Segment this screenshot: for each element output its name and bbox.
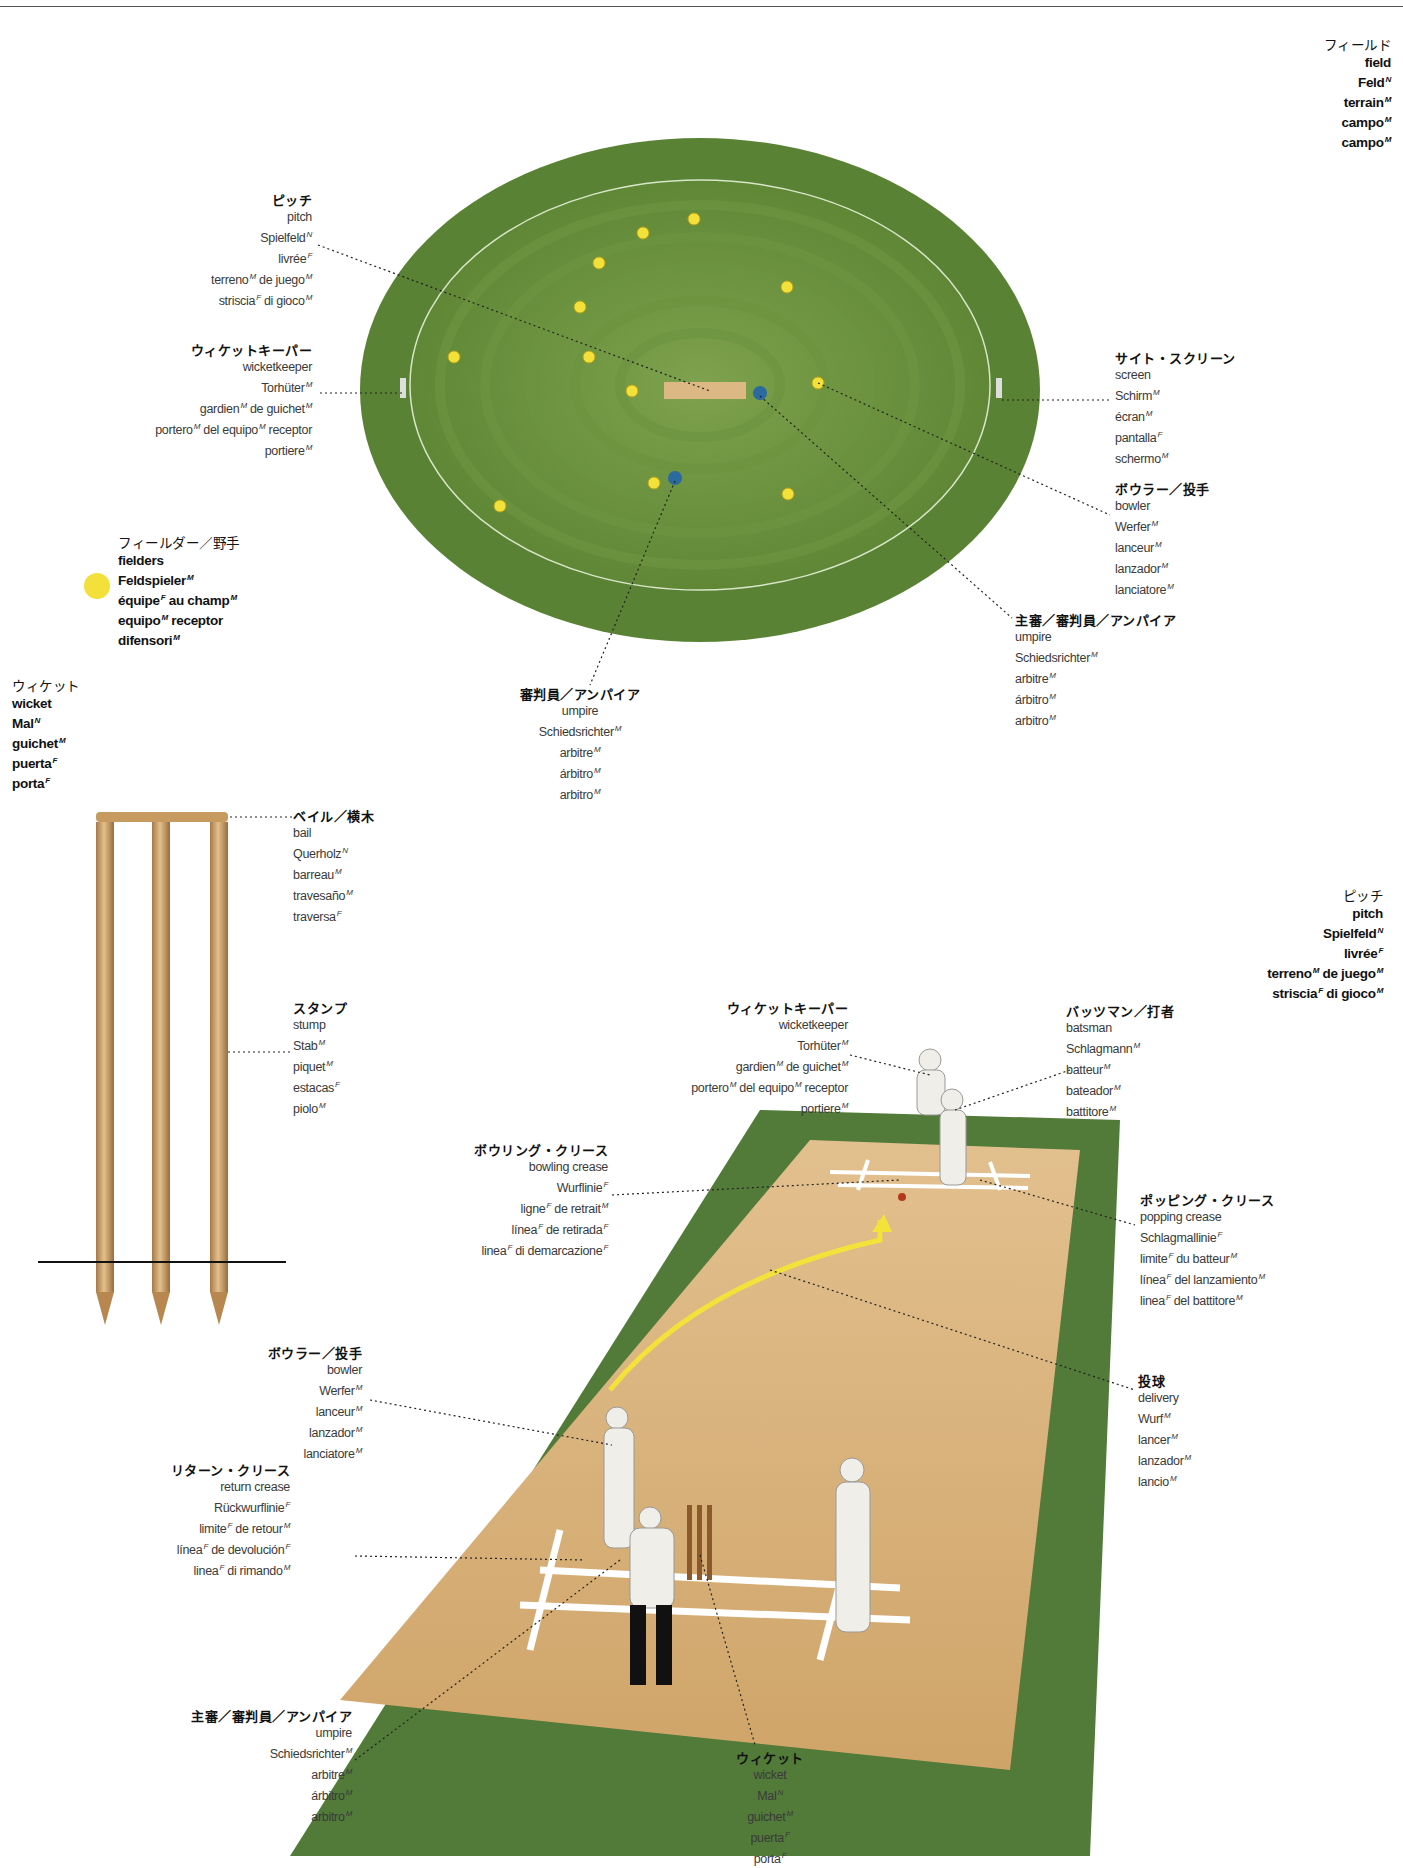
term-line: barreauM	[293, 863, 374, 884]
term-line: puertaF	[12, 752, 80, 772]
label-fielders: フィールダー／野手fieldersFeldspielerMéquipeF au …	[118, 535, 240, 649]
term-line: limiteF du batteurM	[1140, 1247, 1274, 1268]
term-line: portaF	[12, 772, 80, 792]
term-line: batteurM	[1066, 1058, 1174, 1079]
term-line: gardienM de guichetM	[150, 397, 312, 418]
term-line: arbitreM	[505, 741, 655, 762]
term-line: écranM	[1115, 405, 1236, 426]
term-line: return crease	[160, 1479, 290, 1496]
label-pitch-title: ピッチpitchSpielfeldNlivréeFterrenoM de jue…	[1267, 888, 1383, 1002]
term-line: umpire	[1015, 629, 1176, 646]
term-line: guichetM	[12, 732, 80, 752]
pitch-perspective-illustration	[290, 1049, 1120, 1856]
label-sight-screen: サイト・スクリーンscreenSchirmMécranMpantallaFsch…	[1115, 350, 1236, 468]
term-line: portaF	[720, 1847, 820, 1868]
term-line: árbitroM	[505, 762, 655, 783]
label-field-title: フィールド fieldFeldNterrainMcampoMcampoM	[1324, 37, 1392, 151]
term-line: terrenoM de juegoM	[200, 268, 312, 289]
term-line: arbitreM	[1015, 667, 1176, 688]
term-line: QuerholzN	[293, 842, 374, 863]
fielder-legend-dot	[84, 573, 110, 599]
label-return-crease: リターン・クリースreturn creaseRückwurflinieFlimi…	[160, 1462, 290, 1580]
term-line: SchiedsrichterM	[1015, 646, 1176, 667]
term-line: lancioM	[1138, 1470, 1191, 1491]
term-line: delivery	[1138, 1390, 1191, 1407]
term-line: battitoreM	[1066, 1100, 1174, 1121]
term-line: campoM	[1324, 111, 1392, 131]
term-line: porteroM del equipoM receptor	[150, 418, 312, 439]
label-wicketkeeper-bottom: ウィケットキーパーwicketkeeperTorhüterMgardienM d…	[690, 1000, 848, 1118]
term-line: piquetM	[293, 1055, 347, 1076]
term-line: strisciaF di giocoM	[200, 289, 312, 310]
term-line: difensoriM	[118, 629, 240, 649]
wicket-stumps-illustration	[38, 812, 286, 1325]
term-line: stump	[293, 1017, 347, 1034]
sight-screen-left	[400, 378, 406, 398]
term-line: campoM	[1324, 131, 1392, 151]
term-line: bateadorM	[1066, 1079, 1174, 1100]
label-wicket: ウィケットwicketMalNguichetMpuertaFportaF	[12, 678, 80, 792]
label-popping-crease: ポッピング・クリースpopping creaseSchlagmallinieFl…	[1140, 1192, 1274, 1310]
term-line: líneaF de devoluciónF	[160, 1538, 290, 1559]
term-line: MalN	[12, 712, 80, 732]
term-line: árbitroM	[1015, 688, 1176, 709]
term-line: gardienM de guichetM	[690, 1055, 848, 1076]
term-line: FeldspielerM	[118, 569, 240, 589]
term-line: bowling crease	[470, 1159, 608, 1176]
term-line: bowler	[262, 1362, 362, 1379]
term-line: umpire	[505, 703, 655, 720]
term-line: WurflinieF	[470, 1176, 608, 1197]
term-line: pioloM	[293, 1097, 347, 1118]
term-line: popping crease	[1140, 1209, 1274, 1226]
term-line: ligneF de retraitM	[470, 1197, 608, 1218]
term-line: SchlagmannM	[1066, 1037, 1174, 1058]
label-bowler-top: ボウラー／投手bowlerWerferMlanceurMlanzadorMlan…	[1115, 481, 1210, 599]
term-line: umpire	[190, 1725, 352, 1742]
term-line: field	[1324, 54, 1392, 71]
term-line: SchirmM	[1115, 384, 1236, 405]
term-line: livréeF	[1267, 942, 1383, 962]
pitch-strip	[664, 382, 746, 399]
term-line: schermoM	[1115, 447, 1236, 468]
term-line: lanzadorM	[1115, 557, 1210, 578]
term-line: líneaF de retiradaF	[470, 1218, 608, 1239]
term-line: WerferM	[262, 1379, 362, 1400]
term-line: lanciatoreM	[262, 1442, 362, 1463]
term-line: pantallaF	[1115, 426, 1236, 447]
term-line: livréeF	[200, 247, 312, 268]
term-line: limiteF de retourM	[160, 1517, 290, 1538]
term-line: líneaF del lanzamientoM	[1140, 1268, 1274, 1289]
term-line: arbitroM	[1015, 709, 1176, 730]
term-line: WerferM	[1115, 515, 1210, 536]
term-line: lanzadorM	[262, 1421, 362, 1442]
term-line: SpielfeldN	[1267, 922, 1383, 942]
term-line: wicketkeeper	[690, 1017, 848, 1034]
term-line: wicketkeeper	[150, 359, 312, 376]
term-line: bail	[293, 825, 374, 842]
term-line: SchlagmallinieF	[1140, 1226, 1274, 1247]
term-line: traversaF	[293, 905, 374, 926]
term-line: SchiedsrichterM	[505, 720, 655, 741]
term-line: arbitreM	[190, 1763, 352, 1784]
term-line: lancerM	[1138, 1428, 1191, 1449]
term-line: SpielfeldN	[200, 226, 312, 247]
cricket-field-oval	[360, 138, 1040, 642]
term-line: terrenoM de juegoM	[1267, 962, 1383, 982]
term-line: TorhüterM	[150, 376, 312, 397]
term-line: strisciaF di giocoM	[1267, 982, 1383, 1002]
term-line: lineaF del battitoreM	[1140, 1289, 1274, 1310]
term-line: lineaF di rimandoM	[160, 1559, 290, 1580]
term-line: TorhüterM	[690, 1034, 848, 1055]
label-pitch: ピッチpitchSpielfeldNlivréeFterrenoM de jue…	[200, 192, 312, 310]
term-line: RückwurflinieF	[160, 1496, 290, 1517]
label-bowling-crease: ボウリング・クリースbowling creaseWurflinieFligneF…	[470, 1142, 608, 1260]
term-line: batsman	[1066, 1020, 1174, 1037]
term-line: lanceurM	[1115, 536, 1210, 557]
term-line: SchiedsrichterM	[190, 1742, 352, 1763]
term-line: terrainM	[1324, 91, 1392, 111]
term-line: puertaF	[720, 1826, 820, 1847]
term-line: bowler	[1115, 498, 1210, 515]
term-line: wicket	[720, 1767, 820, 1784]
term-line: StabM	[293, 1034, 347, 1055]
term-line: lineaF di demarcazioneF	[470, 1239, 608, 1260]
